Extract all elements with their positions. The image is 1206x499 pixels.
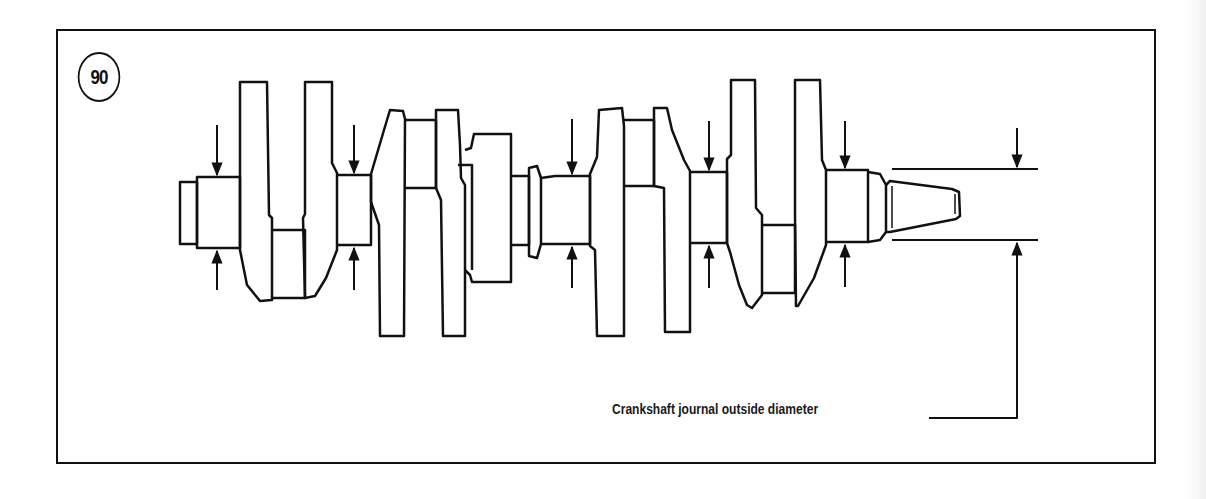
crankshaft-diagram — [0, 0, 1206, 499]
dimension-lines — [892, 169, 1038, 418]
figure-caption: Crankshaft journal outside diameter — [612, 401, 818, 417]
crankshaft-body — [180, 80, 960, 336]
